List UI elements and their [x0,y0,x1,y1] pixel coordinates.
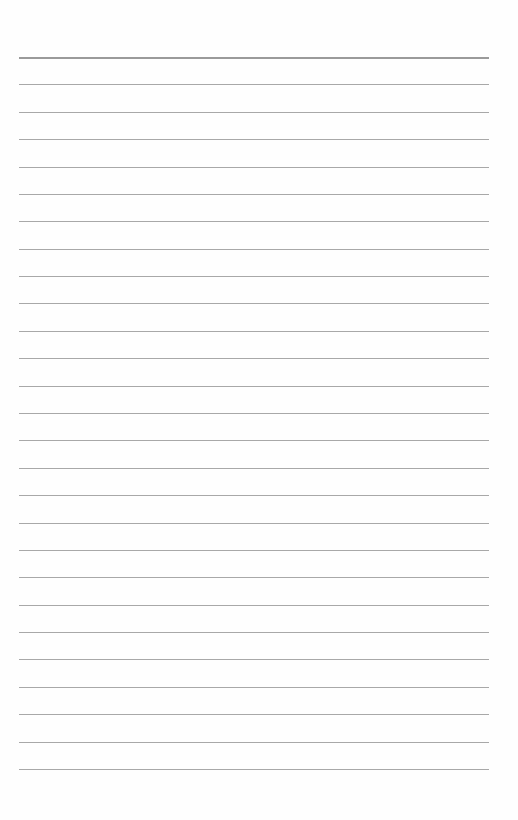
ruled-line [19,358,489,359]
ruled-line [19,687,489,688]
ruled-line [19,550,489,551]
ruled-line [19,413,489,414]
ruled-line [19,167,489,168]
ruled-line [19,523,489,524]
ruled-line [19,221,489,222]
ruled-line [19,194,489,195]
ruled-line [19,577,489,578]
ruled-line [19,440,489,441]
ruled-line [19,303,489,304]
ruled-line [19,659,489,660]
ruled-line [19,331,489,332]
ruled-line [19,632,489,633]
ruled-line [19,468,489,469]
ruled-line [19,495,489,496]
ruled-line [19,249,489,250]
ruled-line [19,714,489,715]
ruled-line [19,769,489,770]
ruled-line [19,276,489,277]
lined-paper-page [0,0,518,820]
ruled-line [19,386,489,387]
ruled-line [19,605,489,606]
ruled-line [19,139,489,140]
ruled-line [19,84,489,85]
ruled-line [19,57,489,59]
ruled-line [19,742,489,743]
ruled-line [19,112,489,113]
